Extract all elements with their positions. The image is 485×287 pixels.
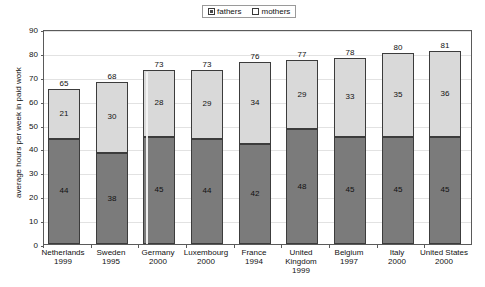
bar-group[interactable]: 453378 [334, 31, 366, 244]
bar-group[interactable]: 452873 [143, 31, 175, 244]
bar-group[interactable]: 442165 [48, 31, 80, 244]
x-axis-tick-mark [424, 245, 425, 248]
x-axis-label: United States2000 [416, 248, 472, 266]
y-axis-tick-label: 20 [14, 194, 38, 202]
bar-segment-fathers[interactable]: 45 [143, 137, 175, 245]
y-axis-tick-label: 60 [14, 99, 38, 107]
bar-value-mothers: 35 [394, 91, 403, 99]
bar-segment-fathers[interactable]: 42 [239, 144, 271, 244]
bars-container: 4421653830684528734429734234764829774533… [44, 31, 471, 244]
bar-value-mothers: 29 [203, 100, 212, 108]
bar-segment-fathers[interactable]: 45 [334, 137, 366, 245]
bar-value-fathers: 44 [203, 187, 212, 195]
bar-group[interactable]: 423476 [239, 31, 271, 244]
bar-value-mothers: 33 [346, 93, 355, 101]
bar-segment-fathers[interactable]: 44 [48, 139, 80, 244]
x-axis-label-name: United States [416, 248, 472, 257]
bar-total-label: 76 [239, 53, 271, 61]
legend-item-mothers: mothers [252, 8, 290, 16]
x-axis-tick-mark [186, 245, 187, 248]
bar-value-mothers: 29 [298, 91, 307, 99]
bar-total-label: 77 [286, 51, 318, 59]
bar-segment-mothers[interactable]: 34 [239, 62, 271, 143]
bar-segment-mothers[interactable]: 29 [191, 70, 223, 139]
bar-value-mothers: 21 [60, 110, 69, 118]
bar-value-fathers: 38 [108, 195, 117, 203]
bar-segment-mothers[interactable]: 21 [48, 89, 80, 139]
bar-total-label: 73 [191, 61, 223, 69]
chart-legend: fathers mothers [202, 5, 296, 18]
bar-segment-fathers[interactable]: 45 [382, 137, 414, 245]
y-axis-tick-label: 40 [14, 146, 38, 154]
bar-segment-fathers[interactable]: 48 [286, 129, 318, 244]
bar-group[interactable]: 453580 [382, 31, 414, 244]
bar-group[interactable]: 453681 [429, 31, 461, 244]
bar-value-fathers: 44 [60, 187, 69, 195]
bar-value-fathers: 45 [394, 186, 403, 194]
bar-total-label: 78 [334, 49, 366, 57]
bar-value-fathers: 42 [251, 190, 260, 198]
x-axis-tick-mark [281, 245, 282, 248]
x-axis-tick-mark [91, 245, 92, 248]
bar-group[interactable]: 442973 [191, 31, 223, 244]
legend-swatch-fathers-icon [208, 8, 215, 15]
legend-label-fathers: fathers [217, 8, 241, 16]
bar-segment-mothers[interactable]: 36 [429, 51, 461, 137]
x-axis-tick-mark [329, 245, 330, 248]
x-axis-label-year: 1999 [273, 266, 329, 275]
legend-item-fathers: fathers [208, 8, 241, 16]
bar-total-label: 81 [429, 42, 461, 50]
y-axis-tick-label: 70 [14, 75, 38, 83]
bar-segment-mothers[interactable]: 28 [143, 70, 175, 137]
bar-group[interactable]: 482977 [286, 31, 318, 244]
y-axis-tick-label: 50 [14, 123, 38, 131]
bar-total-label: 80 [382, 44, 414, 52]
bar-segment-mothers[interactable]: 33 [334, 58, 366, 137]
bar-group[interactable]: 383068 [96, 31, 128, 244]
bar-value-mothers: 28 [155, 99, 164, 107]
y-axis-tick-label: 30 [14, 170, 38, 178]
x-axis-tick-mark [234, 245, 235, 248]
bar-segment-fathers[interactable]: 38 [96, 153, 128, 244]
stacked-bar-chart: fathers mothers average hours per week i… [0, 0, 485, 287]
bar-total-label: 68 [96, 73, 128, 81]
x-axis-tick-mark [43, 245, 44, 248]
bar-segment-fathers[interactable]: 45 [429, 137, 461, 245]
bar-total-label: 65 [48, 80, 80, 88]
bar-value-fathers: 45 [441, 186, 450, 194]
y-axis-tick-label: 80 [14, 51, 38, 59]
x-axis-tick-mark [138, 245, 139, 248]
bar-value-mothers: 34 [251, 99, 260, 107]
x-axis-labels: Netherlands1999Sweden1995Germany2000Luxe… [43, 248, 472, 284]
legend-label-mothers: mothers [261, 8, 290, 16]
bar-value-fathers: 48 [298, 183, 307, 191]
bar-value-mothers: 36 [441, 90, 450, 98]
bar-value-mothers: 30 [108, 113, 117, 121]
x-axis-tick-mark [377, 245, 378, 248]
y-axis-tick-label: 10 [14, 218, 38, 226]
bar-segment-mothers[interactable]: 30 [96, 82, 128, 154]
bar-segment-mothers[interactable]: 35 [382, 53, 414, 137]
bar-value-fathers: 45 [346, 186, 355, 194]
bar-segment-mothers[interactable]: 29 [286, 60, 318, 129]
x-axis-label-year: 2000 [416, 257, 472, 266]
y-axis-tick-label: 90 [14, 27, 38, 35]
bar-segment-fathers[interactable]: 44 [191, 139, 223, 244]
plot-area: 0102030405060708090 44216538306845287344… [43, 30, 472, 245]
bar-value-fathers: 45 [155, 186, 164, 194]
bar-total-label: 73 [143, 61, 175, 69]
legend-swatch-mothers-icon [252, 8, 259, 15]
